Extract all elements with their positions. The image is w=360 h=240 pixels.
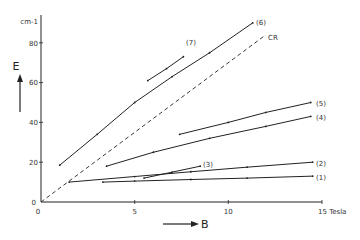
y-tick-80: 80: [29, 40, 38, 48]
data-point: [134, 176, 136, 178]
data-point: [106, 165, 108, 167]
series-line-4: [107, 116, 311, 166]
x-tick-0: 0: [36, 208, 40, 216]
y-axis-label: E: [13, 60, 20, 73]
data-point: [246, 177, 248, 179]
series-label-cr: CR: [268, 34, 278, 42]
y-arrowhead-icon: [17, 74, 23, 82]
data-point: [312, 161, 314, 163]
data-point: [182, 56, 184, 58]
x-tick-5: 5: [132, 208, 136, 216]
data-point: [252, 22, 254, 24]
x-arrowhead-icon: [191, 221, 199, 227]
data-point: [143, 177, 145, 179]
data-point: [171, 171, 173, 173]
data-point: [166, 68, 168, 70]
x-tick-10: 10: [224, 208, 233, 216]
series-label-5: (5): [316, 100, 326, 108]
x-axis-label: B: [201, 218, 209, 231]
data-point: [134, 102, 136, 104]
series-line-5: [180, 103, 311, 135]
y-unit-label: cm-1: [20, 18, 38, 26]
y-tick-0: 0: [32, 199, 36, 207]
magneto-spectroscopy-chart: 0 5 10 15 Tesla 0 20 40 60 80 cm-1 E B (…: [0, 0, 360, 240]
series-label-6: (6): [256, 19, 266, 27]
series-label-4: (4): [316, 114, 326, 122]
series-line-cr: [41, 35, 266, 202]
data-point: [153, 151, 155, 153]
data-point: [265, 112, 267, 114]
data-point: [179, 133, 181, 135]
data-point: [96, 133, 98, 135]
series-label-3: (3): [203, 161, 213, 169]
data-point: [265, 125, 267, 127]
series-line-6: [60, 23, 253, 165]
data-point: [59, 164, 61, 166]
data-point: [312, 175, 314, 177]
data-point: [171, 76, 173, 78]
series-label-7: (7): [186, 39, 196, 47]
data-point: [134, 180, 136, 182]
y-tick-60: 60: [29, 79, 38, 87]
series-label-1: (1): [316, 174, 326, 182]
data-point: [190, 171, 192, 173]
series-label-2: (2): [316, 160, 326, 168]
y-tick-20: 20: [29, 159, 38, 167]
data-point: [209, 52, 211, 54]
data-point: [209, 137, 211, 139]
data-point: [68, 181, 70, 183]
data-point: [246, 166, 248, 168]
series-line-7: [148, 57, 184, 81]
data-point: [199, 165, 201, 167]
data-point: [227, 122, 229, 124]
y-tick-40: 40: [29, 119, 38, 127]
x-tick-15: 15 Tesla: [318, 208, 346, 216]
data-point: [310, 116, 312, 118]
data-point: [190, 179, 192, 181]
series-group: [41, 22, 314, 202]
data-point: [310, 102, 312, 104]
data-point: [102, 181, 104, 183]
data-point: [147, 80, 149, 82]
